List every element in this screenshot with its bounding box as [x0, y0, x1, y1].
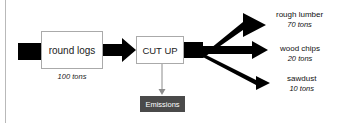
- output-name-wood-chips: wood chips: [280, 44, 320, 54]
- node-round-logs[interactable]: round logs: [41, 31, 103, 69]
- output-label-rough-lumber: rough lumber 70 tons: [276, 10, 323, 29]
- output-label-sawdust: sawdust 10 tons: [287, 74, 316, 93]
- output-quantity-rough-lumber: 70 tons: [276, 20, 323, 29]
- output-name-rough-lumber: rough lumber: [276, 10, 323, 20]
- arrowhead-to-emissions: [159, 89, 166, 95]
- node-cut-up-label: CUT UP: [142, 45, 177, 56]
- node-emissions-label: Emissions: [145, 100, 179, 109]
- node-emissions[interactable]: Emissions: [140, 96, 185, 112]
- output-label-wood-chips: wood chips 20 tons: [280, 44, 320, 63]
- input-source-bar: [18, 43, 42, 60]
- input-quantity-label: 100 tons: [41, 72, 103, 81]
- arrow-sawdust: [199, 52, 270, 90]
- arrow-logs-to-cutup: [103, 38, 136, 62]
- arrow-wood-chips: [200, 41, 268, 59]
- output-name-sawdust: sawdust: [287, 74, 316, 84]
- node-round-logs-label: round logs: [49, 45, 96, 56]
- output-quantity-wood-chips: 20 tons: [280, 54, 320, 63]
- output-quantity-sawdust: 10 tons: [287, 84, 316, 93]
- node-cut-up[interactable]: CUT UP: [136, 36, 184, 64]
- flow-diagram-canvas: round logs 100 tons CUT UP Emissions rou…: [0, 0, 345, 123]
